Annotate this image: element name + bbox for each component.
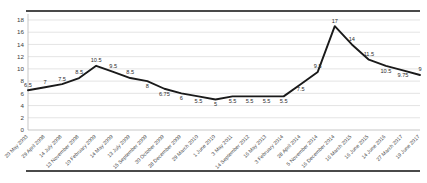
data-point-label: 8.5 [75, 69, 83, 75]
data-point-label: 9 [418, 66, 421, 72]
data-point-label: 5.5 [246, 98, 254, 104]
data-point-labels: 6.577.58.510.59.58.586.7565.555.55.55.55… [24, 18, 421, 108]
data-series-line [28, 26, 420, 99]
data-point-label: 14 [349, 36, 355, 42]
data-point-label: 5 [214, 101, 217, 107]
y-tick-label: 14 [17, 41, 24, 48]
y-tick-label: 2 [21, 114, 25, 121]
data-point-label: 9.5 [314, 63, 322, 69]
data-point-label: 9.75 [398, 72, 409, 78]
y-tick-label: 16 [17, 28, 24, 35]
chart-plot-area: 024681012141618 6.577.58.510.59.58.586.7… [0, 0, 427, 183]
y-tick-label: 4 [21, 102, 25, 109]
data-point-label: 6.5 [24, 82, 32, 88]
y-tick-label: 6 [21, 90, 25, 97]
data-point-label: 6.75 [159, 91, 170, 97]
y-tick-label: 18 [17, 16, 24, 23]
y-tick-label: 0 [21, 126, 25, 133]
data-point-label: 17 [332, 18, 338, 24]
data-point-label: 7.5 [297, 86, 305, 92]
y-axis-tick-labels: 024681012141618 [17, 16, 24, 133]
series-line [28, 26, 420, 99]
y-tick-label: 10 [17, 65, 24, 72]
data-point-label: 9.5 [109, 63, 117, 69]
data-point-label: 5.5 [195, 98, 203, 104]
data-point-label: 6 [180, 95, 183, 101]
data-point-label: 11.5 [364, 51, 374, 57]
data-point-label: 5.5 [280, 98, 288, 104]
line-chart: 024681012141618 6.577.58.510.59.58.586.7… [0, 0, 427, 183]
data-point-label: 10.5 [380, 68, 391, 74]
x-axis-tick-labels: 20 May 200329 April 200814 July 200813 N… [3, 133, 421, 170]
data-point-label: 5.5 [229, 98, 237, 104]
data-point-label: 7 [43, 79, 46, 85]
data-point-label: 8.5 [126, 69, 134, 75]
y-tick-label: 12 [17, 53, 24, 60]
data-point-label: 7.5 [58, 76, 66, 82]
data-point-label: 8 [146, 83, 149, 89]
data-point-label: 5.5 [263, 98, 271, 104]
data-point-label: 10.5 [91, 57, 102, 63]
